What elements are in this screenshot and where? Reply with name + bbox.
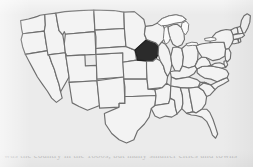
lake-erie: [186, 42, 198, 46]
state-kansas[interactable]: [123, 60, 147, 79]
state-florida[interactable]: [187, 109, 218, 138]
lake-ontario: [205, 37, 217, 41]
state-rhode-island[interactable]: [238, 39, 241, 43]
state-montana[interactable]: [56, 10, 95, 35]
state-maine[interactable]: [240, 14, 250, 34]
state-connecticut[interactable]: [232, 39, 239, 44]
clipped-caption-text: was the country in the 1880s, but many s…: [4, 156, 250, 160]
state-colorado[interactable]: [96, 53, 124, 79]
map-area: [0, 0, 253, 153]
us-locator-map-figure: was the country in the 1880s, but many s…: [0, 0, 253, 167]
caption-clip: was the country in the 1880s, but many s…: [4, 156, 250, 167]
state-utah[interactable]: [65, 53, 97, 83]
state-new-jersey[interactable]: [225, 49, 231, 62]
state-wyoming[interactable]: [64, 32, 96, 56]
state-arizona[interactable]: [69, 81, 100, 111]
united-states-map: [0, 0, 253, 153]
state-south-dakota[interactable]: [95, 28, 126, 48]
state-north-dakota[interactable]: [94, 10, 125, 30]
caption-strip: was the country in the 1880s, but many s…: [0, 153, 253, 167]
